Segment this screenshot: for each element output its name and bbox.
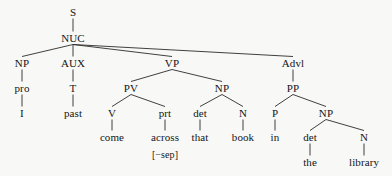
tree-node-det1: det bbox=[193, 108, 207, 119]
tree-edge bbox=[326, 120, 364, 131]
tree-node-i: I bbox=[20, 108, 24, 119]
tree-edge bbox=[275, 95, 293, 107]
tree-node-prt: prt bbox=[159, 108, 172, 119]
tree-node-library: library bbox=[349, 157, 379, 168]
tree-node-np3: NP bbox=[319, 108, 333, 119]
tree-node-aux: AUX bbox=[61, 58, 85, 69]
tree-node-vp: VP bbox=[165, 58, 179, 69]
tree-edge bbox=[22, 45, 73, 57]
tree-edge bbox=[200, 95, 222, 107]
tree-edge bbox=[310, 120, 326, 131]
tree-node-s: S bbox=[70, 7, 76, 18]
tree-node-in: in bbox=[271, 132, 280, 143]
tree-node-sep: [−sep] bbox=[152, 150, 178, 160]
tree-edge bbox=[131, 70, 172, 82]
syntax-tree-diagram: SNUCNPproIAUXTpastVPPVVcomeprtacross[−se… bbox=[0, 0, 392, 176]
tree-node-p: P bbox=[272, 108, 278, 119]
tree-node-det2: det bbox=[303, 132, 317, 143]
tree-edge bbox=[172, 70, 222, 82]
tree-node-n1: N bbox=[239, 108, 247, 119]
tree-node-pro: pro bbox=[15, 83, 30, 94]
tree-node-across: across bbox=[151, 132, 179, 143]
tree-node-the: the bbox=[303, 157, 317, 168]
tree-node-np2: NP bbox=[215, 83, 229, 94]
tree-edge bbox=[73, 45, 293, 57]
tree-node-nuc: NUC bbox=[61, 33, 85, 44]
tree-node-t: T bbox=[70, 83, 77, 94]
tree-edge bbox=[293, 95, 326, 107]
tree-node-n2: N bbox=[360, 132, 368, 143]
tree-node-book: book bbox=[232, 132, 254, 143]
tree-node-np1: NP bbox=[15, 58, 29, 69]
tree-node-that: that bbox=[192, 132, 209, 143]
tree-edge bbox=[222, 95, 243, 107]
tree-edge bbox=[112, 95, 131, 107]
tree-node-pp: PP bbox=[287, 83, 299, 94]
tree-edge bbox=[73, 45, 172, 57]
tree-node-come: come bbox=[100, 132, 124, 143]
tree-node-v: V bbox=[108, 108, 116, 119]
tree-node-pv: PV bbox=[124, 83, 138, 94]
tree-edge bbox=[131, 95, 165, 107]
tree-node-past: past bbox=[64, 108, 82, 119]
tree-node-advl: Advl bbox=[282, 58, 304, 69]
tree-edges-layer bbox=[0, 0, 392, 176]
